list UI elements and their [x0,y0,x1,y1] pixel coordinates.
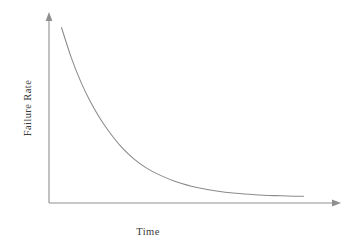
chart-figure: Failure Rate Time [0,0,356,250]
y-axis-label-container: Failure Rate [0,76,54,140]
y-axis-arrowhead-icon [46,12,53,21]
x-axis-arrowhead-icon [332,200,341,207]
failure-rate-curve [62,28,304,197]
y-axis-label: Failure Rate [22,80,33,136]
x-axis-label-container: Time [96,221,200,237]
x-axis [49,200,341,207]
x-axis-label: Time [136,226,159,237]
